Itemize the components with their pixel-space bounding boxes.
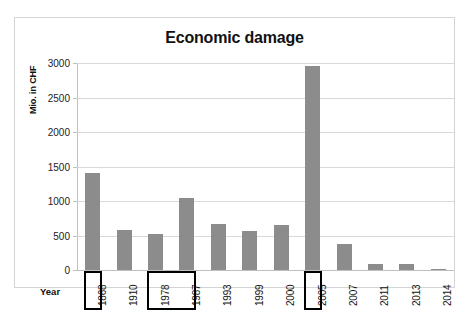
- y-tick-label-1000: 1000: [48, 196, 70, 207]
- y-tick-mark-2000: [73, 132, 77, 133]
- bar-2014: [431, 269, 446, 270]
- gridline-1000: [77, 201, 454, 202]
- x-axis-title: Year: [40, 286, 60, 297]
- bar-1978: [148, 234, 163, 270]
- x-tick-label-2011: 2011: [379, 285, 390, 306]
- y-tick-label-1500: 1500: [48, 161, 70, 172]
- highlight-box-2005: [304, 271, 322, 310]
- bar-2000: [274, 225, 289, 270]
- y-tick-label-3000: 3000: [48, 58, 70, 69]
- gridline-1500: [77, 167, 454, 168]
- y-tick-mark-2500: [73, 98, 77, 99]
- x-tick-label-1993: 1993: [222, 285, 233, 306]
- plot-area: 050010001500200025003000: [77, 63, 454, 270]
- highlight-box-1978-1987: [147, 271, 196, 310]
- bar-2013: [399, 264, 414, 270]
- bar-1868: [85, 173, 100, 270]
- x-tick-label-2013: 2013: [411, 285, 422, 306]
- gridline-0: [77, 270, 454, 271]
- y-tick-mark-1500: [73, 167, 77, 168]
- y-axis-title: Mio. in CHF: [28, 66, 38, 114]
- bar-1993: [211, 224, 226, 270]
- y-tick-label-0: 0: [64, 265, 70, 276]
- bar-2005: [305, 66, 320, 270]
- x-axis-tick-labels: 1868191019781987199319992000200520072011…: [77, 272, 454, 310]
- x-tick-label-2014: 2014: [442, 285, 453, 306]
- x-tick-label-1999: 1999: [254, 285, 265, 306]
- highlight-box-1868: [84, 271, 102, 310]
- y-tick-mark-500: [73, 236, 77, 237]
- bar-1999: [242, 231, 257, 270]
- y-tick-label-2500: 2500: [48, 92, 70, 103]
- bar-1987: [179, 198, 194, 270]
- y-tick-mark-3000: [73, 63, 77, 64]
- bar-1910: [117, 230, 132, 270]
- gridline-2000: [77, 132, 454, 133]
- gridline-2500: [77, 98, 454, 99]
- chart-frame: Economic damage Mio. in CHF 050010001500…: [14, 17, 455, 288]
- x-tick-label-2000: 2000: [285, 285, 296, 306]
- y-tick-mark-0: [73, 270, 77, 271]
- gridline-3000: [77, 63, 454, 64]
- chart-title: Economic damage: [15, 29, 454, 47]
- x-tick-label-1910: 1910: [128, 285, 139, 306]
- bar-2007: [337, 244, 352, 270]
- x-tick-label-2007: 2007: [348, 285, 359, 306]
- bar-2011: [368, 264, 383, 270]
- y-tick-label-2000: 2000: [48, 127, 70, 138]
- y-tick-mark-1000: [73, 201, 77, 202]
- gridline-500: [77, 236, 454, 237]
- y-tick-label-500: 500: [53, 230, 70, 241]
